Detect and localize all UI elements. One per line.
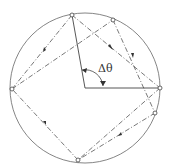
arrow-head (82, 68, 87, 73)
radius-line-vertical (72, 15, 85, 88)
vertex (158, 86, 162, 90)
angle-label: Δθ (98, 62, 113, 75)
dashed-polygon-1 (12, 15, 160, 160)
vertex (111, 18, 115, 22)
vertex (10, 87, 14, 91)
rotation-diagram: Δθ (0, 0, 169, 167)
arrow-head (131, 53, 134, 58)
vertex (153, 111, 157, 115)
dashed-polygon-2 (12, 20, 155, 160)
vertex (76, 158, 80, 162)
vertex (70, 13, 74, 17)
arrow-head (118, 132, 122, 136)
arrow-head (100, 81, 106, 86)
arrow-head (108, 44, 113, 50)
